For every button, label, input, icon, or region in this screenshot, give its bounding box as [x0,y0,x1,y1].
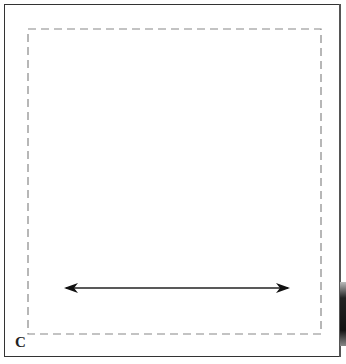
diagram-drawing [0,0,346,364]
diagram-canvas: C [0,0,346,364]
corner-label: C [15,334,26,351]
